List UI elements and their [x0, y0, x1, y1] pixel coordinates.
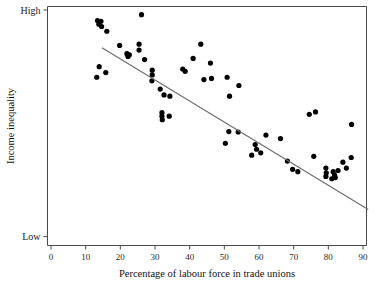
scatter-chart: 0102030405060708090 HighLow Percentage o…: [0, 0, 377, 287]
data-point: [201, 77, 206, 82]
data-point: [117, 43, 122, 48]
data-point: [125, 54, 130, 59]
data-point: [223, 141, 228, 146]
x-tick-label: 10: [81, 252, 91, 262]
data-point: [158, 86, 163, 91]
data-point: [323, 174, 328, 179]
axis-frame: [48, 7, 367, 246]
x-axis-tick-labels: 0102030405060708090: [49, 252, 368, 262]
data-point: [136, 42, 141, 47]
data-point: [236, 83, 241, 88]
data-point: [139, 12, 144, 17]
data-point: [136, 48, 141, 53]
data-points: [94, 12, 354, 181]
y-axis-ticks: [44, 10, 48, 237]
data-point: [349, 155, 354, 160]
data-point: [335, 168, 340, 173]
chart-canvas: 0102030405060708090 HighLow Percentage o…: [0, 0, 377, 287]
data-point: [97, 64, 102, 69]
data-point: [103, 70, 108, 75]
x-axis-ticks: [51, 246, 363, 250]
x-tick-label: 40: [185, 252, 195, 262]
x-tick-label: 50: [220, 252, 230, 262]
data-point: [307, 112, 312, 117]
trend-line-segment: [102, 48, 368, 210]
data-point: [167, 94, 172, 99]
data-point: [142, 57, 147, 62]
data-point: [323, 166, 328, 171]
x-tick-label: 20: [116, 252, 126, 262]
data-point: [198, 42, 203, 47]
data-point: [258, 150, 263, 155]
data-point: [160, 117, 165, 122]
x-tick-label: 80: [324, 252, 334, 262]
data-point: [263, 132, 268, 137]
x-tick-label: 70: [289, 252, 299, 262]
data-point: [183, 69, 188, 74]
y-axis-tick-labels: HighLow: [21, 5, 42, 243]
data-point: [290, 167, 295, 172]
data-point: [253, 142, 258, 147]
x-tick-label: 0: [49, 252, 54, 262]
data-point: [329, 176, 334, 181]
x-tick-label: 60: [255, 252, 265, 262]
data-point: [313, 109, 318, 114]
data-point: [150, 68, 155, 73]
data-point: [254, 147, 259, 152]
data-point: [226, 129, 231, 134]
data-point: [311, 154, 316, 159]
data-point: [98, 19, 103, 24]
y-axis-title: Income inequality: [5, 87, 16, 164]
data-point: [209, 76, 214, 81]
data-point: [191, 56, 196, 61]
trend-line: [102, 48, 368, 210]
x-axis-title: Percentage of labour force in trade unio…: [119, 268, 295, 279]
data-point: [295, 169, 300, 174]
axis-frame-top-right: [48, 7, 367, 246]
data-point: [227, 94, 232, 99]
data-point: [278, 136, 283, 141]
data-point: [349, 122, 354, 127]
data-point: [161, 92, 166, 97]
y-tick-label: Low: [22, 231, 41, 242]
data-point: [167, 114, 172, 119]
data-point: [225, 75, 230, 80]
x-tick-label: 90: [359, 252, 369, 262]
data-point: [99, 24, 104, 29]
data-point: [208, 61, 213, 66]
data-point: [94, 75, 99, 80]
data-point: [344, 166, 349, 171]
data-point: [104, 29, 109, 34]
data-point: [340, 160, 345, 165]
data-point: [249, 153, 254, 158]
y-tick-label: High: [21, 5, 41, 16]
x-tick-label: 30: [151, 252, 161, 262]
